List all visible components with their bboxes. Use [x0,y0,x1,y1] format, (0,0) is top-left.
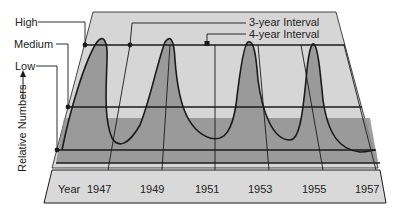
medium-label: Medium [14,38,53,50]
year-tick-1947: 1947 [87,183,111,195]
diagram-canvas: High Medium Low Relative Numbers 3-year … [0,0,398,216]
three-year-dot [128,43,133,48]
year-tick-1953: 1953 [248,183,272,195]
three-year-interval-label: 3-year Interval [249,16,319,28]
high-dot [83,43,88,48]
medium-dot [66,105,71,110]
medium-leader [56,44,68,107]
low-label: Low [15,60,35,72]
x-axis-label: Year [58,183,80,195]
y-axis-label: Relative Numbers [16,85,28,172]
four-year-interval-label: 4-year Interval [249,28,319,40]
year-tick-1957: 1957 [355,183,379,195]
year-tick-1955: 1955 [302,183,326,195]
four-year-marker [205,41,210,46]
low-dot [55,148,60,153]
high-label: High [15,16,38,28]
year-tick-1951: 1951 [195,183,219,195]
low-leader [36,66,57,150]
year-tick-1949: 1949 [140,183,164,195]
